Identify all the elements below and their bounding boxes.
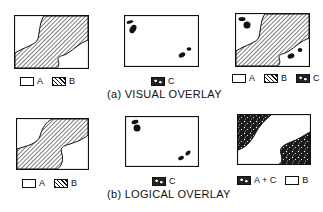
map-result-row-a: [235, 13, 310, 67]
caption-logical-overlay: (b) LOGICAL OVERLAY: [107, 188, 231, 200]
legend-row-a-map1: A B: [20, 76, 75, 86]
blank-swatch: [285, 176, 299, 185]
map-frame: [125, 116, 199, 167]
legend-row-b-map1: A B: [22, 178, 77, 188]
speckled-swatch: [152, 177, 166, 186]
speckled-swatch: [151, 77, 165, 86]
map-frame: [16, 118, 89, 170]
blank-swatch: [20, 77, 34, 86]
map-frame: [237, 114, 311, 165]
legend-row-a-map2: C: [151, 76, 175, 86]
caption-visual-overlay: (a) VISUAL OVERLAY: [107, 88, 222, 100]
hatched-swatch: [54, 179, 68, 188]
legend-row-b-map3: A + C B: [237, 175, 308, 185]
map-frame: [14, 15, 89, 69]
map-frame: [124, 15, 199, 67]
map-c-row-b: [125, 116, 199, 167]
legend-row-b-map2: C: [152, 176, 176, 186]
speckled-swatch: [296, 74, 310, 83]
map-frame: [235, 13, 310, 67]
map-a-b-row-a: [14, 15, 89, 69]
speckled-swatch: [237, 176, 251, 185]
hatched-swatch: [264, 74, 278, 83]
map-result-row-b: [237, 114, 311, 165]
map-a-b-row-b: [16, 118, 89, 170]
hatched-swatch: [52, 77, 66, 86]
blank-swatch: [232, 74, 246, 83]
map-c-row-a: [124, 15, 199, 67]
blank-swatch: [22, 179, 36, 188]
legend-row-a-map3: A B C: [232, 73, 320, 83]
